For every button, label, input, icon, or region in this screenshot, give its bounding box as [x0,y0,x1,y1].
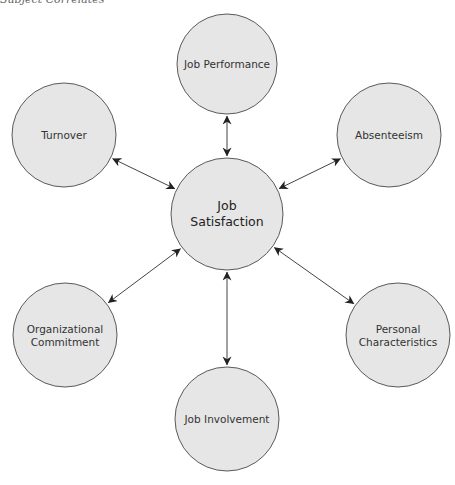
bidirectional-arrow-organizational-commitment [108,249,180,303]
node-label: Characteristics [359,336,438,348]
node-label: Job [216,198,236,213]
job-satisfaction-diagram: JobSatisfactionJob PerformanceTurnoverAb… [0,0,455,485]
node-label: Job Performance [183,58,270,70]
node-label: Absenteeism [355,129,423,141]
node-personal-characteristics: PersonalCharacteristics [346,283,450,387]
node-label: Personal [376,323,421,335]
node-label: Job Involvement [184,413,270,425]
bidirectional-arrow-personal-characteristics [274,248,354,304]
node-job-involvement: Job Involvement [175,367,279,471]
node-label: Organizational [27,323,103,335]
node-job-satisfaction: JobSatisfaction [171,158,283,270]
node-turnover: Turnover [12,83,116,187]
bidirectional-arrow-turnover [113,159,175,189]
bidirectional-arrow-absenteeism [279,159,340,189]
node-label: Commitment [31,336,100,348]
node-job-performance: Job Performance [177,14,277,114]
node-label: Satisfaction [190,214,263,229]
nodes-group: JobSatisfactionJob PerformanceTurnoverAb… [12,14,450,471]
node-absenteeism: Absenteeism [337,83,441,187]
node-organizational-commitment: OrganizationalCommitment [13,283,117,387]
node-label: Turnover [40,129,87,141]
